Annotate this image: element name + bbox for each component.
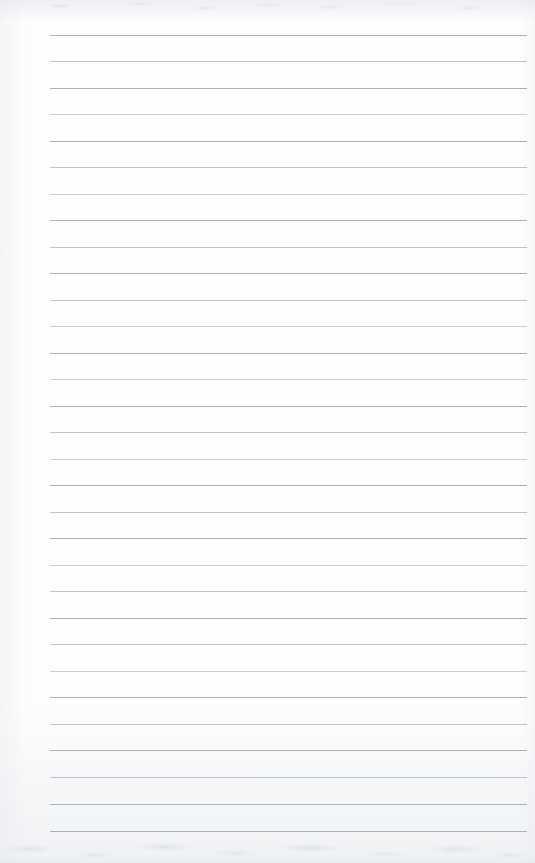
rule-line	[50, 512, 527, 513]
rule-line	[50, 724, 527, 725]
ruled-writing-area[interactable]	[0, 0, 535, 863]
rule-line	[50, 273, 527, 274]
rule-line	[50, 300, 527, 301]
rule-line	[50, 326, 527, 327]
rule-line	[50, 220, 527, 221]
rule-line	[50, 644, 527, 645]
rule-line	[50, 432, 527, 433]
rule-line	[50, 565, 527, 566]
rule-line	[50, 697, 527, 698]
rule-line	[50, 459, 527, 460]
rule-line	[50, 538, 527, 539]
notebook-page	[0, 0, 535, 863]
rule-line	[50, 35, 527, 36]
rule-line	[50, 61, 527, 62]
rule-line	[50, 591, 527, 592]
rule-line	[50, 831, 527, 832]
rule-line	[50, 485, 527, 486]
rule-line	[50, 353, 527, 354]
rule-line	[50, 167, 527, 168]
rule-line	[50, 88, 527, 89]
rule-line	[50, 406, 527, 407]
rule-line	[50, 194, 527, 195]
rule-line	[50, 379, 527, 380]
rule-line	[50, 114, 527, 115]
rule-line	[50, 618, 527, 619]
rule-line	[50, 671, 527, 672]
rule-line	[50, 777, 527, 778]
rule-line	[50, 141, 527, 142]
rule-line	[50, 247, 527, 248]
rule-line	[50, 750, 527, 751]
rule-line	[50, 804, 527, 805]
